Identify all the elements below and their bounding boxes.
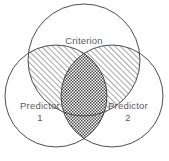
predictor1-label-line2: 1 (37, 112, 42, 123)
predictor2-label-line1: Predictor (108, 100, 148, 111)
predictor1-label-line1: Predictor (20, 100, 60, 111)
venn-diagram-canvas: Criterion Predictor 1 Predictor 2 (0, 0, 169, 161)
venn-diagram-figure: Criterion Predictor 1 Predictor 2 (0, 0, 169, 161)
criterion-label: Criterion (65, 35, 103, 46)
predictor2-label-line2: 2 (125, 112, 130, 123)
